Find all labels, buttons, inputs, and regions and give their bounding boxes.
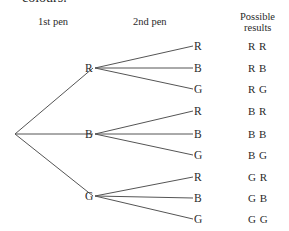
- branch-line-second-5: [95, 134, 193, 155]
- possible-result: B G: [248, 149, 268, 161]
- second-pen-node: B: [194, 128, 202, 140]
- second-pen-node: B: [194, 192, 202, 204]
- second-pen-node: G: [194, 83, 202, 95]
- possible-result: B B: [248, 128, 267, 140]
- second-pen-node: G: [194, 149, 202, 161]
- branch-line-second-7: [95, 196, 193, 198]
- branch-line-second-6: [95, 177, 193, 196]
- possible-result: G R: [248, 171, 268, 183]
- second-pen-node: G: [194, 213, 202, 225]
- first-pen-node-r: R: [85, 62, 93, 74]
- branch-line-second-2: [95, 68, 193, 89]
- branch-line-second-0: [95, 46, 193, 68]
- second-pen-node: R: [194, 40, 202, 52]
- possible-result: B R: [248, 105, 267, 117]
- possible-result: G B: [248, 192, 268, 204]
- possible-result: G G: [248, 213, 268, 225]
- second-pen-node: B: [194, 62, 202, 74]
- second-pen-node: R: [194, 105, 202, 117]
- possible-result: R G: [248, 83, 268, 95]
- possible-result: R R: [248, 40, 267, 52]
- branch-line-first-2: [15, 134, 93, 196]
- first-pen-node-b: B: [85, 128, 93, 140]
- branch-line-first-0: [15, 68, 93, 134]
- branch-line-second-8: [95, 196, 193, 219]
- first-pen-node-g: G: [85, 190, 93, 202]
- branch-line-second-3: [95, 111, 193, 134]
- possible-result: R B: [248, 62, 267, 74]
- second-pen-node: R: [194, 171, 202, 183]
- tree-diagram-lines: [0, 0, 289, 231]
